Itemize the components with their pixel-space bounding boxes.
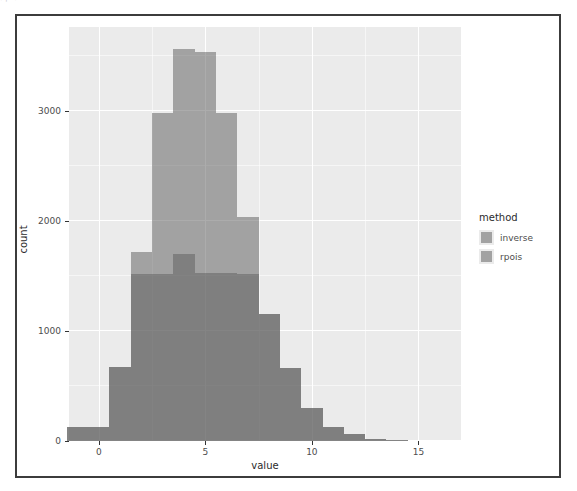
histogram-bar [323,427,344,441]
x-axis-tick [99,441,100,445]
histogram-bar [259,314,280,441]
legend-item-label: inverse [500,233,533,243]
y-axis-tick [65,111,69,112]
legend-key-swatch [479,249,494,264]
legend-title: method [479,212,533,223]
x-axis-tick [312,441,313,445]
y-axis-title: count [18,225,29,253]
histogram-bar [109,367,130,441]
legend-item: inverse [479,230,533,245]
x-axis-tick-label: 15 [413,447,424,457]
y-axis-tick [65,331,69,332]
clipped-top-text: · ⌐ · [0,0,577,12]
y-axis-tick-label: 1000 [17,326,61,336]
legend-key-swatch [479,230,494,245]
plot-area: 0510150100020003000 value count method i… [17,16,559,476]
legend: method inverserpois [479,212,533,268]
x-axis-tick [418,441,419,445]
legend-item: rpois [479,249,533,264]
histogram-bar [216,273,237,441]
histogram-bar [131,274,152,441]
y-axis-tick-label: 2000 [17,216,61,226]
screenshot-root: · ⌐ · 0510150100020003000 value count me… [0,0,577,491]
figure-frame: 0510150100020003000 value count method i… [15,14,561,478]
legend-item-label: rpois [500,252,522,262]
x-axis-title: value [69,460,461,471]
x-axis-tick-label: 10 [306,447,317,457]
histogram-bar [280,368,301,441]
histogram-bar [237,274,258,441]
histogram-bar [173,254,194,441]
histogram-bar [195,273,216,441]
histogram-bar [386,440,407,441]
y-axis-tick [65,221,69,222]
histogram-bar [344,434,365,441]
histogram-bar [88,427,109,441]
legend-items: inverserpois [479,230,533,264]
y-axis-tick [65,441,69,442]
histogram-bar [152,274,173,441]
histogram-bar [301,408,322,441]
y-axis-tick-label: 0 [17,436,61,446]
histogram-bars [69,27,461,441]
y-axis-tick-label: 3000 [17,106,61,116]
histogram-bar [67,427,88,441]
histogram-bar [365,439,386,441]
x-axis-tick-label: 5 [202,447,208,457]
clipped-top-text-label: · ⌐ · [0,0,17,5]
x-axis-tick [205,441,206,445]
chart-panel [69,27,461,441]
x-axis-tick-label: 0 [96,447,102,457]
